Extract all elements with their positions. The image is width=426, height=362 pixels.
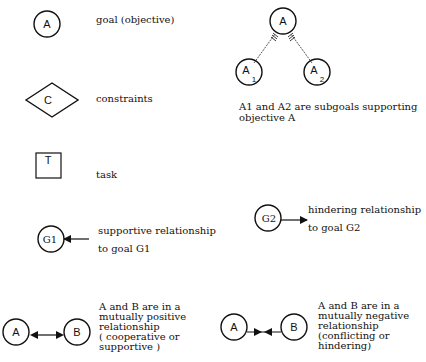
svg-text:A: A (310, 64, 318, 76)
svg-text:A: A (230, 321, 238, 333)
svg-text:G1: G1 (43, 234, 57, 245)
supportive-label-line1: supportive relationship (98, 225, 216, 237)
hindering-label-line2: to goal G2 (308, 222, 360, 234)
svg-text:1: 1 (252, 75, 257, 84)
mutual-positive-label: A and B are in a mutually positive relat… (99, 302, 186, 352)
svg-text:B: B (73, 326, 80, 338)
subgoal-tree-icon: A A 1 A 2 (236, 8, 330, 85)
svg-text:A: A (279, 15, 287, 27)
svg-text:A: A (242, 64, 250, 76)
task-label: task (96, 169, 117, 181)
svg-text:A: A (12, 326, 20, 338)
hindering-relationship-icon: G2 (255, 205, 307, 231)
svg-text:2: 2 (320, 75, 325, 84)
task-square-icon: T (36, 153, 61, 178)
supportive-label-line2: to goal G1 (98, 243, 150, 255)
constraint-label: constraints (96, 93, 153, 105)
subgoals-label-line2: objective A (239, 112, 295, 124)
constraint-diamond-icon: C (26, 83, 78, 117)
supportive-relationship-icon: G1 (38, 226, 89, 252)
svg-text:T: T (45, 154, 52, 166)
mutual-negative-label: A and B are in a mutually negative relat… (318, 301, 409, 351)
mutual-negative-relationship-icon: A B (221, 314, 307, 340)
svg-text:C: C (44, 94, 52, 106)
svg-text:G2: G2 (262, 213, 276, 224)
hindering-label-line1: hindering relationship (308, 204, 421, 216)
goal-label: goal (objective) (96, 14, 174, 26)
mutual-positive-relationship-icon: A B (3, 319, 90, 345)
svg-text:A: A (43, 18, 51, 30)
goal-circle-icon: A (34, 11, 60, 37)
svg-text:B: B (290, 321, 297, 333)
